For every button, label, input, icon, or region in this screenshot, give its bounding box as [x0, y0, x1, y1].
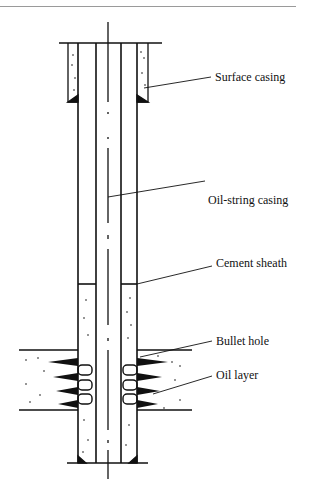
leader-bullet-hole [140, 341, 212, 357]
label-surface-casing: Surface casing [215, 70, 285, 84]
leader-oil-string [108, 181, 205, 197]
bullet-holes-left [48, 358, 78, 408]
label-cement-sheath: Cement sheath [216, 256, 287, 270]
leader-surface-casing [144, 77, 211, 88]
label-oil-layer: Oil layer [216, 368, 258, 382]
label-oil-string-casing: Oil-string casing [208, 193, 288, 207]
leader-cement-sheath [137, 266, 212, 284]
bullet-holes-right [137, 358, 168, 408]
leader-oil-layer [153, 376, 212, 394]
label-bullet-hole: Bullet hole [216, 334, 269, 348]
